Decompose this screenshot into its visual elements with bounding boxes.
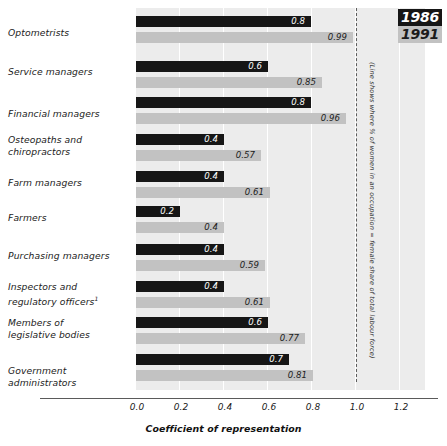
- bar-value-1991-service-managers: 0.85: [242, 77, 316, 88]
- bar-value-1991-farm-managers: 0.61: [190, 187, 264, 198]
- x-tick-5: 1.0: [340, 402, 374, 412]
- gridline-1.2: [399, 8, 400, 390]
- category-label-government-administrators: Government administrators: [8, 365, 134, 388]
- footnote-marker: 1: [94, 295, 98, 302]
- bar-value-1986-purchasing-managers: 0.4: [144, 244, 218, 255]
- x-tick-6: 1.2: [384, 402, 418, 412]
- bar-value-1986-financial-managers: 0.8: [231, 97, 305, 108]
- legend-item-1991: 1991: [398, 26, 442, 43]
- x-tick-4: 0.8: [296, 402, 330, 412]
- category-label-farm-managers: Farm managers: [8, 177, 134, 189]
- chart-root: (Line shows where % of women in an occup…: [0, 0, 447, 446]
- category-label-purchasing-managers: Purchasing managers: [8, 250, 134, 262]
- category-label-members-of-legislative-bodies: Members of legislative bodies: [8, 317, 134, 340]
- category-label-financial-managers: Financial managers: [8, 108, 134, 120]
- x-tick-0: 0.0: [120, 402, 154, 412]
- bar-value-1991-inspectors-and-regulatory-officers: 0.61: [190, 297, 264, 308]
- bar-value-1991-members-of-legislative-bodies: 0.77: [225, 333, 299, 344]
- x-tick-3: 0.6: [252, 402, 286, 412]
- bar-value-1991-financial-managers: 0.96: [266, 113, 340, 124]
- bar-value-1986-osteopaths-and-chiropractors: 0.4: [144, 134, 218, 145]
- bar-value-1991-purchasing-managers: 0.59: [185, 260, 259, 271]
- bar-value-1986-inspectors-and-regulatory-officers: 0.4: [144, 281, 218, 292]
- gridline-0.8: [311, 8, 312, 390]
- reference-line-dashed: [356, 8, 357, 382]
- bar-value-1991-optometrists: 0.99: [273, 32, 347, 43]
- bar-value-1986-members-of-legislative-bodies: 0.6: [188, 317, 262, 328]
- bar-value-1991-osteopaths-and-chiropractors: 0.57: [181, 150, 255, 161]
- category-label-optometrists: Optometrists: [8, 27, 134, 39]
- bar-value-1986-farm-managers: 0.4: [144, 171, 218, 182]
- category-label-service-managers: Service managers: [8, 66, 134, 78]
- legend-item-1986: 1986: [398, 9, 442, 26]
- x-tick-2: 0.4: [208, 402, 242, 412]
- bar-value-1986-government-administrators: 0.7: [209, 354, 283, 365]
- bar-value-1986-farmers: 0.2: [100, 206, 174, 217]
- bar-value-1991-farmers: 0.4: [144, 222, 218, 233]
- x-tick-1: 0.2: [164, 402, 198, 412]
- bar-value-1986-service-managers: 0.6: [188, 61, 262, 72]
- bar-value-1986-optometrists: 0.8: [231, 16, 305, 27]
- legend: 1986 1991: [398, 9, 442, 43]
- reference-line-note: (Line shows where % of women in an occup…: [368, 62, 376, 359]
- category-label-osteopaths-and-chiropractors: Osteopaths and chiropractors: [8, 134, 134, 157]
- category-label-inspectors-and-regulatory-officers: Inspectors and regulatory officers1: [8, 281, 134, 307]
- x-axis-title: Coefficient of representation: [0, 423, 447, 434]
- x-axis-line: [40, 398, 438, 399]
- bar-value-1991-government-administrators: 0.81: [233, 370, 307, 381]
